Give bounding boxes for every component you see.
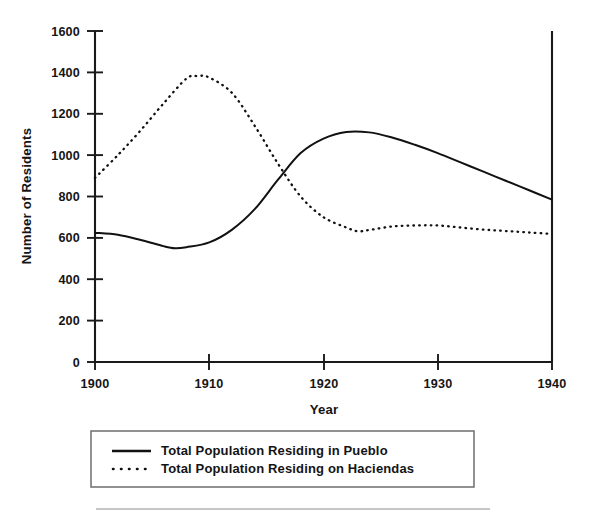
axes <box>95 31 552 362</box>
x-tick-label-1910: 1910 <box>195 377 224 391</box>
y-axis-tick-labels: 0 200 400 600 800 1000 1200 1400 1600 <box>51 25 80 370</box>
x-tick-label-1940: 1940 <box>538 377 567 391</box>
legend-label-pueblo: Total Population Residing in Pueblo <box>161 443 388 458</box>
y-tick-label-800: 800 <box>58 190 80 204</box>
legend-label-haciendas: Total Population Residing on Haciendas <box>161 461 414 476</box>
y-tick-label-1000: 1000 <box>51 149 80 163</box>
legend-border <box>91 431 474 487</box>
chart-legend: Total Population Residing in Pueblo Tota… <box>91 431 474 487</box>
y-tick-label-1400: 1400 <box>51 66 80 80</box>
plot-series <box>95 76 552 249</box>
chart-figure: 0 200 400 600 800 1000 1200 1400 1600 19… <box>0 0 589 511</box>
y-tick-label-600: 600 <box>58 231 80 245</box>
x-axis-title: Year <box>310 402 339 417</box>
series-line-haciendas <box>95 76 552 234</box>
y-tick-label-1200: 1200 <box>51 107 80 121</box>
x-tick-label-1920: 1920 <box>310 377 339 391</box>
x-tick-label-1930: 1930 <box>424 377 453 391</box>
y-tick-label-0: 0 <box>73 356 80 370</box>
y-axis-title: Number of Residents <box>19 128 34 264</box>
line-chart-svg: 0 200 400 600 800 1000 1200 1400 1600 19… <box>0 0 589 511</box>
y-tick-label-400: 400 <box>58 273 80 287</box>
x-tick-label-1900: 1900 <box>81 377 110 391</box>
y-tick-label-1600: 1600 <box>51 25 80 39</box>
x-axis-tick-labels: 1900 1910 1920 1930 1940 <box>81 377 567 391</box>
y-tick-label-200: 200 <box>58 314 80 328</box>
